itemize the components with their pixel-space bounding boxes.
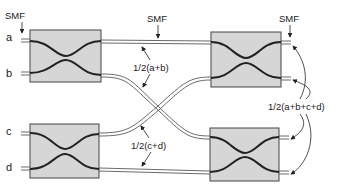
fiber-cross-cd (99, 77, 211, 136)
coupler-bottom-left (30, 124, 99, 178)
input-label-c: c (6, 125, 12, 137)
coupler-diagram: a b c d SMF SMF SMF 1/2(a+b) 1/2(c+d) 1/… (0, 0, 341, 194)
input-fibers (21, 39, 30, 170)
fiber-bottom-straight (99, 168, 210, 174)
smf-label-right: SMF (279, 13, 299, 24)
annotation-half-cd: 1/2(c+d) (131, 140, 166, 151)
input-label-b: b (6, 67, 12, 79)
smf-label-left: SMF (5, 10, 25, 21)
coupler-top-left (30, 30, 101, 82)
annotation-half-abcd: 1/2(a+b+c+d) (268, 101, 325, 112)
coupler-top-right (211, 32, 281, 87)
annotation-half-ab: 1/2(a+b) (133, 62, 169, 73)
fiber-cross-ab (101, 74, 210, 139)
input-label-a: a (6, 31, 13, 43)
smf-label-middle: SMF (147, 13, 167, 24)
fiber-top-straight (101, 40, 211, 44)
coupler-bottom-right (210, 128, 279, 181)
input-label-d: d (6, 161, 12, 173)
